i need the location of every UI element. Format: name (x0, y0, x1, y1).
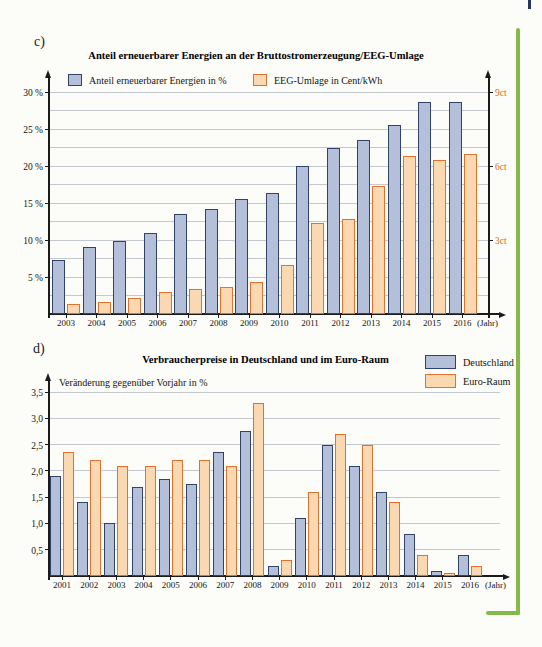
y-axis-line (48, 77, 49, 318)
bar-series1-2011 (296, 166, 309, 314)
right-tick-label: 9ct (495, 88, 507, 98)
margin-bracket-corner (486, 611, 520, 615)
y-tick (45, 166, 49, 167)
legend-item-deutschland: Deutschland (425, 355, 514, 369)
bar-series1-2015 (431, 571, 442, 576)
bar-series2-2013 (372, 186, 385, 314)
chart-c-title: Anteil erneuerbarer Energien an der Brut… (33, 50, 511, 61)
y-tick (45, 203, 49, 204)
bar-series2-2003 (67, 304, 80, 314)
bar-series2-2004 (145, 466, 156, 576)
bar-series2-2006 (199, 460, 210, 576)
bar-series1-2013 (357, 140, 370, 314)
bar-series1-2006 (144, 233, 157, 314)
y-tick-label: 20 % (23, 162, 43, 172)
bar-series2-2007 (189, 289, 202, 314)
bar-series1-2011 (322, 445, 333, 576)
x-axis-arrow (499, 312, 506, 318)
y-tick-label: 2,5 (31, 441, 43, 451)
bar-series2-2010 (281, 265, 294, 314)
bar-series2-2015 (444, 573, 455, 576)
y-tick-label: 15 % (23, 199, 43, 209)
chart-consumer-prices: Verbraucherpreise in Deutschland und im … (33, 346, 538, 606)
bar-series2-2016 (471, 566, 482, 577)
bar-series1-2006 (186, 484, 197, 576)
y-tick (45, 277, 49, 278)
y-tick (45, 129, 49, 130)
bar-series2-2013 (389, 502, 400, 576)
x-tick-label: 2004 (81, 318, 113, 328)
right-tick (489, 240, 493, 241)
x-axis-arrow (503, 574, 510, 580)
x-tick-label: 2016 (454, 580, 486, 590)
page-edge-tick (528, 0, 531, 9)
y-tick (45, 240, 49, 241)
bar-series1-2003 (104, 523, 115, 576)
bar-series1-2012 (327, 148, 340, 314)
right-tick-label: 3ct (495, 236, 507, 246)
bar-series2-2002 (90, 460, 101, 576)
x-axis-suffix: (Jahr) (485, 580, 506, 590)
bar-series2-2009 (281, 560, 292, 576)
bar-series2-2008 (253, 403, 264, 576)
bar-series2-2001 (63, 452, 74, 576)
bar-series2-2009 (250, 282, 263, 314)
right-axis-line (488, 77, 489, 318)
bar-series1-2007 (174, 214, 187, 314)
y-tick (45, 418, 49, 419)
legend-swatch-blue (425, 355, 456, 369)
bar-series2-2007 (226, 466, 237, 576)
bar-series2-2005 (172, 460, 183, 576)
right-tick (489, 92, 493, 93)
x-tick-label: 2003 (50, 318, 82, 328)
y-tick (45, 497, 49, 498)
gridline (49, 92, 489, 93)
bar-series1-2005 (159, 479, 170, 576)
plot-area-d: 0,51,01,52,02,53,03,52001200220032004200… (49, 376, 500, 576)
bar-series1-2013 (376, 492, 387, 576)
y-tick-label: 2,0 (31, 467, 43, 477)
bar-series2-2016 (464, 154, 477, 314)
x-tick-label: 2010 (264, 318, 296, 328)
y-tick (45, 549, 49, 550)
y-tick-label: 5 % (28, 273, 43, 283)
bar-series2-2014 (417, 555, 428, 576)
x-tick-label: 2014 (386, 318, 418, 328)
bar-series2-2012 (362, 445, 373, 576)
y-axis-arrow (45, 70, 51, 78)
x-tick-label: 2008 (203, 318, 235, 328)
y-tick (45, 392, 49, 393)
x-axis-suffix: (Jahr) (477, 318, 498, 328)
bar-series2-2005 (128, 298, 141, 314)
bar-series1-2004 (83, 247, 96, 314)
bar-series1-2015 (418, 102, 431, 314)
bar-series1-2014 (404, 534, 415, 576)
y-tick-label: 1,0 (31, 519, 43, 529)
y-tick-label: 3,0 (31, 414, 43, 424)
bar-series2-2015 (433, 160, 446, 314)
y-tick (45, 470, 49, 471)
bar-series1-2005 (113, 241, 126, 314)
right-tick (489, 166, 493, 167)
y-tick (45, 444, 49, 445)
x-tick-label: 2012 (325, 318, 357, 328)
x-tick-label: 2013 (355, 318, 387, 328)
bar-series2-2014 (403, 156, 416, 314)
chart-renewables-eeg: Anteil erneuerbarer Energien an der Brut… (33, 44, 511, 344)
gridline (49, 392, 500, 393)
gridline (49, 444, 500, 445)
bar-series2-2012 (342, 219, 355, 314)
x-tick-label: 2009 (233, 318, 265, 328)
y-tick-label: 0,5 (31, 546, 43, 556)
y-tick (45, 92, 49, 93)
plot-area-c: 5 %10 %15 %20 %25 %30 %3ct6ct9ct20032004… (49, 73, 489, 314)
x-tick-label: 2011 (294, 318, 326, 328)
bar-series1-2001 (50, 476, 61, 576)
bar-series1-2014 (388, 125, 401, 314)
bar-series2-2011 (335, 434, 346, 576)
bar-series2-2008 (220, 287, 233, 314)
bar-series1-2008 (240, 431, 251, 576)
x-tick-label: 2015 (416, 318, 448, 328)
x-tick-label: 2005 (111, 318, 143, 328)
bar-series1-2016 (449, 102, 462, 314)
